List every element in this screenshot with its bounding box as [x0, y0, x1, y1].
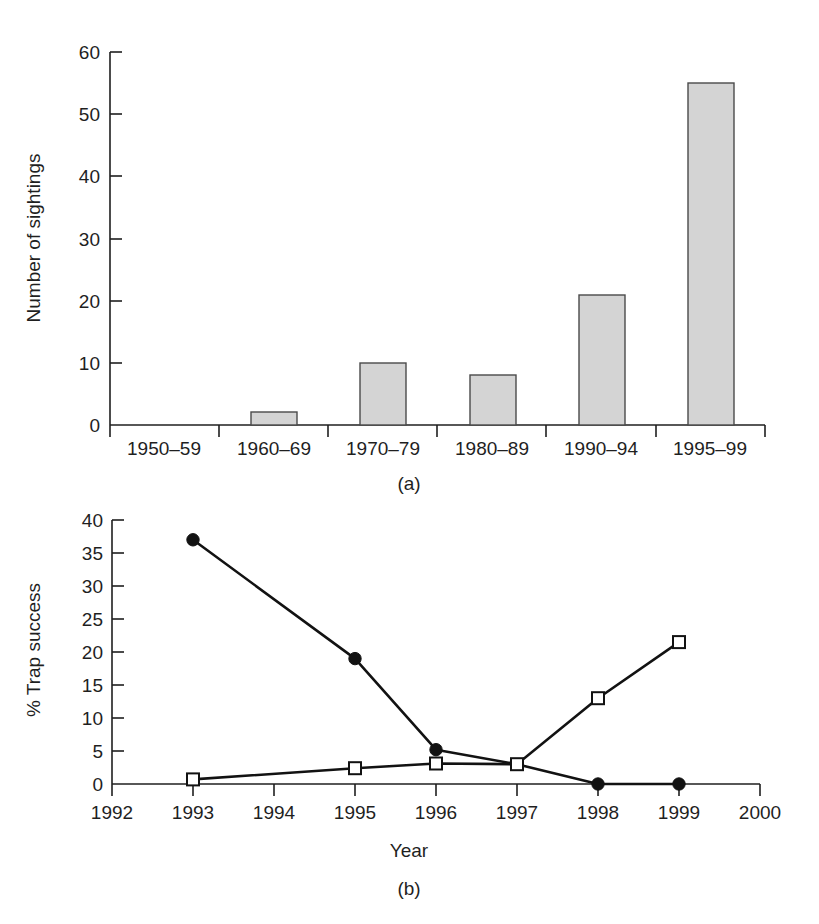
line-chart-x-labels: 1992 1993 1994 1995 1996 1997 1998 1999 … [91, 802, 781, 823]
y-tick-label: 40 [82, 510, 103, 531]
y-tick-40: 40 [82, 510, 124, 531]
data-point-filled [592, 778, 604, 790]
data-point-open [511, 758, 523, 770]
y-tick-60: 60 [79, 42, 122, 63]
y-tick-40: 40 [79, 166, 122, 187]
panel-a-bar-chart: Number of sightings 60 50 40 [0, 0, 819, 500]
y-tick-label: 25 [82, 609, 103, 630]
bar-chart-x-ticks [110, 425, 765, 437]
line-chart-y-axis-title: % Trap success [23, 583, 44, 717]
series-filled-circle-markers [187, 534, 685, 791]
y-tick-label: 0 [92, 774, 103, 795]
x-tick-label: 1950–59 [127, 438, 201, 459]
data-point-filled [187, 534, 199, 546]
y-tick-label: 30 [79, 229, 100, 250]
x-tick-label: 1995–99 [673, 438, 747, 459]
y-tick-50: 50 [79, 104, 122, 125]
y-tick-label: 30 [82, 576, 103, 597]
y-tick-0: 0 [92, 774, 103, 795]
x-tick-label: 1993 [172, 802, 214, 823]
bar-chart-x-labels: 1950–59 1960–69 1970–79 1980–89 1990–94 … [127, 438, 747, 459]
y-tick-label: 35 [82, 543, 103, 564]
line-chart-svg: % Trap success 40 35 30 25 [0, 470, 819, 924]
panel-b-sublabel: (b) [397, 878, 420, 899]
x-tick-label: 1990–94 [564, 438, 638, 459]
data-point-open [430, 758, 442, 770]
bar-1995-99 [688, 83, 734, 425]
y-tick-label: 10 [79, 353, 100, 374]
y-tick-label: 40 [79, 166, 100, 187]
data-point-open [592, 692, 604, 704]
panel-b-line-chart: % Trap success 40 35 30 25 [0, 470, 819, 924]
x-tick-label: 1992 [91, 802, 133, 823]
y-tick-label: 60 [79, 42, 100, 63]
bar-chart-y-axis-title: Number of sightings [23, 154, 44, 323]
bar-chart-y-ticks: 60 50 40 30 20 [79, 42, 122, 436]
x-tick-label: 1980–89 [455, 438, 529, 459]
y-tick-label: 10 [82, 708, 103, 729]
y-tick-25: 25 [82, 609, 124, 630]
bar-chart-bars [251, 83, 734, 425]
data-point-filled [430, 744, 442, 756]
data-point-open [187, 773, 199, 785]
y-tick-20: 20 [82, 642, 124, 663]
data-point-filled [673, 778, 685, 790]
x-tick-label: 1999 [658, 802, 700, 823]
bar-1990-94 [579, 295, 625, 425]
y-tick-0: 0 [89, 415, 100, 436]
bar-chart-svg: Number of sightings 60 50 40 [0, 0, 819, 500]
y-tick-label: 0 [89, 415, 100, 436]
y-tick-label: 5 [92, 741, 103, 762]
y-tick-30: 30 [79, 229, 122, 250]
y-tick-15: 15 [82, 675, 124, 696]
y-tick-label: 20 [79, 291, 100, 312]
y-tick-20: 20 [79, 291, 122, 312]
data-point-open [673, 636, 685, 648]
line-chart-x-ticks [112, 784, 760, 796]
y-tick-10: 10 [82, 708, 124, 729]
x-tick-label: 1998 [577, 802, 619, 823]
y-tick-label: 15 [82, 675, 103, 696]
bar-1970-79 [360, 363, 406, 425]
line-chart-x-axis-title: Year [390, 840, 429, 861]
data-point-open [349, 762, 361, 774]
y-tick-label: 50 [79, 104, 100, 125]
x-tick-label: 1996 [415, 802, 457, 823]
bar-1980-89 [470, 375, 516, 425]
bar-1960-69 [251, 412, 297, 425]
x-tick-label: 1960–69 [237, 438, 311, 459]
figure-container: Number of sightings 60 50 40 [0, 0, 819, 924]
x-tick-label: 1995 [334, 802, 376, 823]
x-tick-label: 2000 [739, 802, 781, 823]
x-tick-label: 1994 [253, 802, 296, 823]
x-tick-label: 1997 [496, 802, 538, 823]
x-tick-label: 1970–79 [346, 438, 420, 459]
y-tick-label: 20 [82, 642, 103, 663]
y-tick-5: 5 [92, 741, 124, 762]
y-tick-10: 10 [79, 353, 122, 374]
data-point-filled [349, 652, 361, 664]
line-chart-y-ticks: 40 35 30 25 20 [82, 510, 124, 795]
y-tick-30: 30 [82, 576, 124, 597]
y-tick-35: 35 [82, 543, 124, 564]
series-open-square-markers [187, 636, 685, 785]
